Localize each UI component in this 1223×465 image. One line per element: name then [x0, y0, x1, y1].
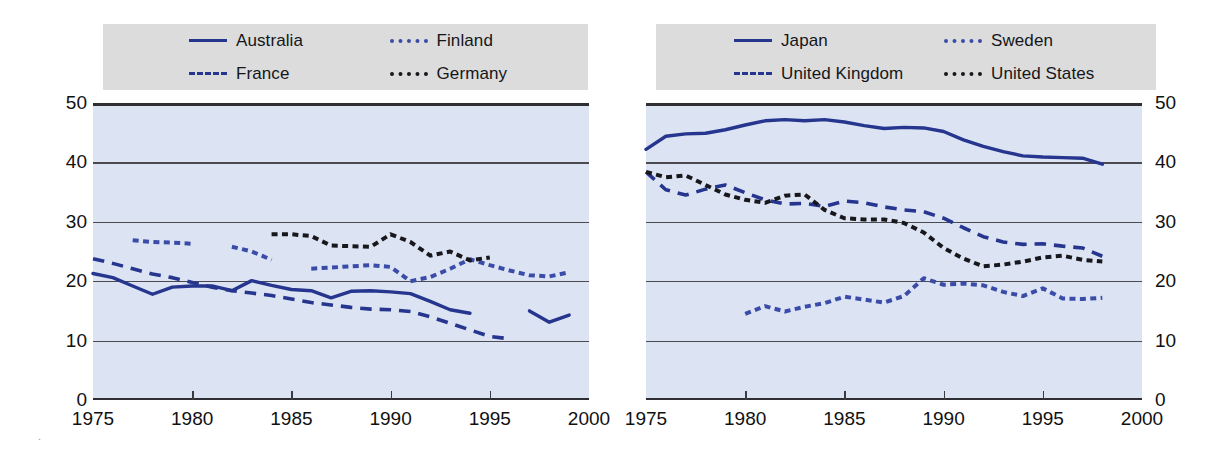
legend-label: Japan — [781, 31, 828, 51]
y-axis-tick-label: 20 — [1155, 271, 1176, 290]
line-style-dotted-icon — [390, 39, 428, 43]
y-axis-tick-label: 40 — [1155, 152, 1176, 171]
legend-label: Australia — [236, 31, 303, 51]
x-axis-tick-label: 2000 — [568, 408, 610, 430]
line-style-dotted-icon — [944, 72, 982, 76]
legend-item-france: France — [103, 64, 346, 84]
series-line-australia — [529, 311, 569, 322]
legend-item-germany: Germany — [346, 64, 589, 84]
legend-item-australia: Australia — [103, 31, 346, 51]
x-axis-tick-label: 1990 — [369, 408, 411, 430]
x-axis-tick — [391, 391, 393, 400]
y-axis-tick-label: 0 — [1155, 390, 1166, 409]
x-axis-tick-label: 1980 — [171, 408, 213, 430]
series-line-finland — [232, 247, 272, 260]
x-axis-tick-label: 2000 — [1121, 408, 1163, 430]
y-axis-labels-right: 01020304050 — [1155, 93, 1197, 410]
page-mark: . — [38, 430, 41, 442]
y-axis-tick-label: 10 — [66, 331, 87, 350]
line-style-dotted-icon — [390, 72, 428, 76]
series-line-sweden — [745, 278, 1102, 314]
chart-panel-left: Australia Finland France Germany 0102030… — [0, 0, 612, 465]
series-line-germany — [272, 234, 490, 260]
x-axis-tick-label: 1975 — [625, 408, 667, 430]
legend-item-finland: Finland — [346, 31, 589, 51]
y-axis-labels-left: 01020304050 — [45, 93, 87, 410]
x-axis-tick-label: 1995 — [469, 408, 511, 430]
legend-label: Germany — [437, 64, 508, 84]
series-line-finland — [311, 259, 569, 281]
chart-panel-right: Japan Sweden United Kingdom United State… — [611, 0, 1223, 465]
legend-label: Sweden — [991, 31, 1053, 51]
line-style-dotted-icon — [944, 39, 982, 43]
line-style-solid-icon — [734, 39, 772, 42]
series-line-japan — [646, 120, 1102, 165]
x-axis-tick-label: 1995 — [1022, 408, 1064, 430]
x-axis-tick — [1043, 391, 1045, 400]
legend-item-united-states: United States — [906, 64, 1156, 84]
legend-left: Australia Finland France Germany — [103, 24, 588, 90]
y-axis-tick-label: 50 — [1155, 93, 1176, 112]
x-axis-tick — [944, 391, 946, 400]
legend-label: United States — [991, 64, 1094, 84]
x-axis-labels-left: 197519801985199019952000 — [93, 408, 589, 434]
legend-item-japan: Japan — [656, 31, 906, 51]
legend-label: Finland — [437, 31, 493, 51]
series-line-finland — [133, 240, 193, 244]
data-lines-right — [646, 103, 1142, 400]
legend-label: France — [236, 64, 290, 84]
x-axis-tick — [490, 391, 492, 400]
data-lines-left — [93, 103, 589, 400]
y-axis-tick-label: 20 — [66, 271, 87, 290]
legend-label: United Kingdom — [781, 64, 903, 84]
x-axis-tick — [192, 391, 194, 400]
plot-area-right — [646, 103, 1142, 400]
y-axis-tick-label: 30 — [1155, 212, 1176, 231]
legend-item-united-kingdom: United Kingdom — [656, 64, 906, 84]
y-axis-tick-label: 30 — [66, 212, 87, 231]
line-style-dashed-icon — [734, 72, 772, 75]
y-axis-tick-label: 0 — [76, 390, 87, 409]
x-axis-tick-label: 1985 — [823, 408, 865, 430]
x-axis-tick-label: 1990 — [922, 408, 964, 430]
y-axis-tick-label: 10 — [1155, 331, 1176, 350]
x-axis-tick — [745, 391, 747, 400]
plot-area-left — [93, 103, 589, 400]
series-line-united-states — [646, 172, 1102, 266]
legend-right: Japan Sweden United Kingdom United State… — [656, 24, 1156, 90]
x-axis-tick-label: 1975 — [72, 408, 114, 430]
x-axis-labels-right: 197519801985199019952000 — [646, 408, 1142, 434]
x-axis-tick — [844, 391, 846, 400]
x-axis-tick-label: 1980 — [724, 408, 766, 430]
line-style-solid-icon — [189, 39, 227, 42]
y-axis-tick-label: 50 — [66, 93, 87, 112]
series-line-france — [93, 259, 510, 339]
series-line-united-kingdom — [646, 172, 1102, 256]
line-style-dashed-icon — [189, 72, 227, 75]
y-axis-tick-label: 40 — [66, 152, 87, 171]
legend-item-sweden: Sweden — [906, 31, 1156, 51]
x-axis-tick — [291, 391, 293, 400]
x-axis-tick-label: 1985 — [270, 408, 312, 430]
